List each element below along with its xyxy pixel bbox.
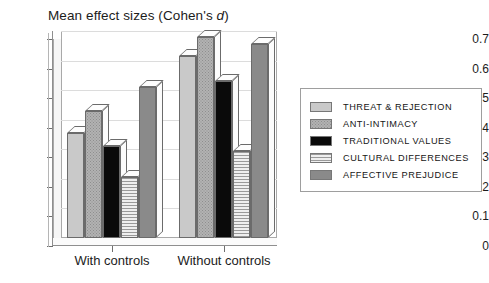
bar — [85, 111, 102, 238]
bar — [215, 81, 232, 238]
x-tick-label: With controls — [74, 253, 149, 268]
y-axis-outer-line — [48, 33, 49, 247]
bar-front-face — [103, 146, 120, 238]
gridline — [61, 31, 277, 32]
bar — [67, 133, 84, 238]
legend-swatch — [310, 102, 332, 112]
chart-legend: THREAT & REJECTIONANTI-INTIMACYTRADITION… — [300, 88, 482, 192]
bar-front-face — [197, 37, 214, 238]
bar-front-face — [233, 151, 250, 238]
bar — [179, 56, 196, 238]
legend-item: THREAT & REJECTION — [310, 100, 452, 113]
legend-swatch — [310, 153, 332, 163]
y-tick-label: 0.7 — [455, 32, 489, 46]
bar — [139, 87, 156, 238]
bar — [197, 37, 214, 238]
legend-item: CULTURAL DIFFERENCES — [310, 151, 469, 164]
bar — [233, 151, 250, 238]
legend-label: THREAT & REJECTION — [343, 102, 452, 112]
plot-left-wall — [53, 39, 61, 246]
bar-front-face — [121, 177, 138, 238]
bar — [121, 177, 138, 238]
bar-side-face — [156, 81, 163, 238]
legend-label: AFFECTIVE PREJUDICE — [343, 170, 459, 180]
legend-item: AFFECTIVE PREJUDICE — [310, 168, 459, 181]
bar — [251, 44, 268, 238]
y-tick-label: 0.6 — [455, 62, 489, 76]
legend-swatch — [310, 170, 332, 180]
x-tick-label: Without controls — [177, 253, 270, 268]
legend-label: ANTI-INTIMACY — [343, 119, 418, 129]
bar — [103, 146, 120, 238]
gridline — [61, 61, 277, 62]
bar-front-face — [85, 111, 102, 238]
bar-front-face — [139, 87, 156, 238]
bar-front-face — [67, 133, 84, 238]
legend-label: CULTURAL DIFFERENCES — [343, 153, 469, 163]
bar-front-face — [251, 44, 268, 238]
legend-swatch — [310, 136, 332, 146]
bar-front-face — [179, 56, 196, 238]
legend-item: ANTI-INTIMACY — [310, 117, 418, 130]
x-tick-mark — [224, 246, 225, 252]
plot-area — [53, 31, 277, 246]
legend-item: TRADITIONAL VALUES — [310, 134, 451, 147]
plot-floor — [53, 238, 277, 246]
legend-label: TRADITIONAL VALUES — [343, 136, 451, 146]
x-tick-mark — [112, 246, 113, 252]
gridline — [61, 90, 277, 91]
y-tick-label: 0.1 — [455, 209, 489, 223]
legend-swatch — [310, 119, 332, 129]
chart-figure: Mean effect sizes (Cohen's d) 00.10.20.3… — [0, 0, 489, 283]
bar-front-face — [215, 81, 232, 238]
y-tick-label: 0 — [455, 239, 489, 253]
bar-side-face — [268, 38, 275, 238]
